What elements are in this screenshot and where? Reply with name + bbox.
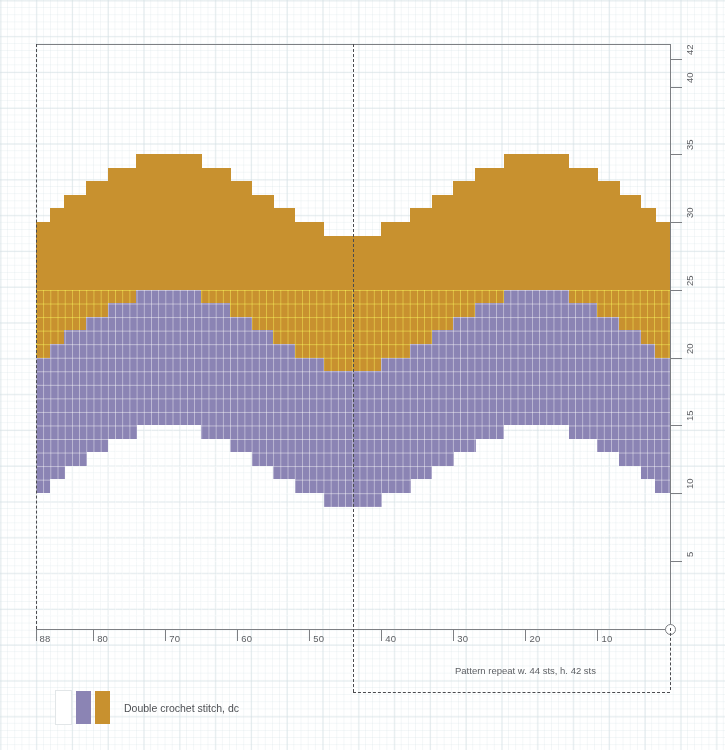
x-tick-label: 50 [313,633,324,644]
y-tick-label: 30 [684,207,695,218]
y-tick-label: 5 [684,551,695,556]
y-tick [671,290,682,291]
x-tick [381,630,382,641]
y-tick [671,425,682,426]
x-tick-label: 60 [241,633,252,644]
x-tick [237,630,238,641]
y-tick [671,87,682,88]
x-tick [36,630,37,641]
x-tick-label: 20 [529,633,540,644]
y-tick-label: 25 [684,275,695,286]
repeat-box-bottom-edge [353,692,670,693]
x-tick-label: 70 [169,633,180,644]
x-tick-label: 88 [40,633,51,644]
y-tick [671,358,682,359]
x-tick [525,630,526,641]
x-tick-label: 30 [457,633,468,644]
pattern-repeat-note: Pattern repeat w. 44 sts, h. 42 sts [455,665,596,676]
y-tick-label: 20 [684,343,695,354]
legend-label: Double crochet stitch, dc [124,702,239,714]
y-tick [671,493,682,494]
x-tick [165,630,166,641]
y-tick [671,561,682,562]
x-tick [309,630,310,641]
legend-swatch-purple [76,691,91,724]
x-tick-label: 10 [601,633,612,644]
x-tick-label: 40 [385,633,396,644]
y-tick-label: 10 [684,478,695,489]
y-tick-label: 15 [684,411,695,422]
y-tick [671,59,682,60]
x-tick [597,630,598,641]
legend-swatch-empty [55,690,72,725]
repeat-box-right-edge [670,628,671,690]
y-tick [671,154,682,155]
y-tick-label: 40 [684,72,695,83]
chart-stage: 888070605040302010 51015202530354042 Pat… [0,0,725,750]
y-axis-line [670,44,671,629]
x-tick-label: 80 [97,633,108,644]
y-tick-label: 42 [684,45,695,56]
legend-swatch-gold [95,691,110,724]
repeat-box-left-edge [36,44,37,629]
y-tick-label: 35 [684,140,695,151]
legend: Double crochet stitch, dc [55,690,239,725]
y-tick [671,222,682,223]
x-tick [93,630,94,641]
x-tick [453,630,454,641]
repeat-box-middle-edge [353,44,354,692]
